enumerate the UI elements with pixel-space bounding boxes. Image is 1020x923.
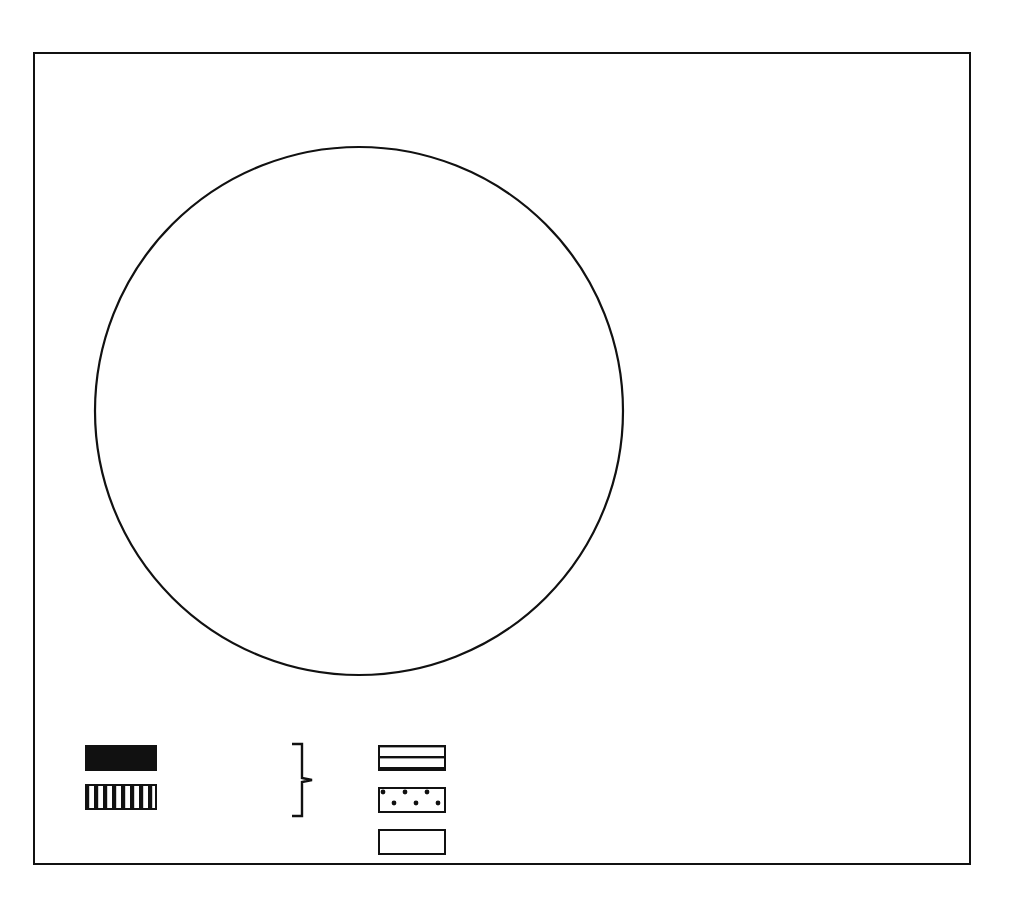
legend-swatch-indoeuropaeer [378,787,446,813]
legend-swatch-dagestanische-voelker [85,745,157,771]
legend-swatch-vertical-stripes-fill [85,784,157,810]
brace-icon [290,742,314,818]
legend-swatch-angehoerige [378,829,446,855]
legend-swatch-altajer [378,745,446,771]
pie-outline [95,147,623,675]
